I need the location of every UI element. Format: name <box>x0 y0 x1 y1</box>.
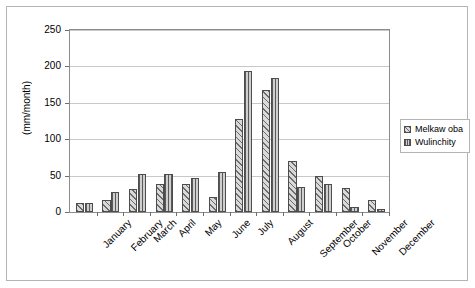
bar-december-melkaw-oba <box>368 200 376 212</box>
bar-may-melkaw-oba <box>182 184 190 212</box>
x-axis-tick-mark <box>150 212 151 216</box>
bar-february-wulinchity <box>111 192 119 212</box>
bar-december-wulinchity <box>377 209 385 212</box>
x-axis-tick-mark <box>389 212 390 216</box>
legend-item: Wulinchity <box>404 136 466 149</box>
bar-august-melkaw-oba <box>262 90 270 212</box>
x-axis-tick-mark <box>362 212 363 216</box>
plot-area <box>69 29 390 213</box>
x-axis-tick-mark <box>230 212 231 216</box>
x-axis-tick-mark <box>309 212 310 216</box>
y-axis-tick-label: 50 <box>35 171 61 181</box>
legend-swatch-wulinchity <box>404 139 411 146</box>
x-axis-tick-mark <box>283 212 284 216</box>
bar-august-wulinchity <box>271 78 279 212</box>
bar-january-melkaw-oba <box>76 203 84 212</box>
legend-label-melkaw-oba: Melkaw oba <box>415 125 463 134</box>
bar-november-wulinchity <box>350 207 358 212</box>
x-axis-tick-mark <box>203 212 204 216</box>
x-axis-tick-mark <box>256 212 257 216</box>
bar-january-wulinchity <box>85 203 93 212</box>
bar-march-melkaw-oba <box>129 189 137 212</box>
bar-march-wulinchity <box>138 174 146 212</box>
x-axis-tick-mark <box>336 212 337 216</box>
y-axis-tick-label: 250 <box>35 25 61 35</box>
chart-legend: Melkaw oba Wulinchity <box>400 119 470 153</box>
bar-october-wulinchity <box>324 184 332 212</box>
bar-september-wulinchity <box>297 187 305 212</box>
bar-june-wulinchity <box>218 172 226 212</box>
x-axis-tick-mark <box>176 212 177 216</box>
bar-july-wulinchity <box>244 71 252 212</box>
bar-july-melkaw-oba <box>235 119 243 212</box>
x-axis-tick-label: June <box>230 217 253 240</box>
legend-swatch-melkaw-oba <box>404 126 411 133</box>
x-axis-tick-mark <box>123 212 124 216</box>
bar-june-melkaw-oba <box>209 197 217 212</box>
bar-september-melkaw-oba <box>288 161 296 212</box>
bar-october-melkaw-oba <box>315 176 323 212</box>
legend-item: Melkaw oba <box>404 123 466 136</box>
chart-frame: (mm/month) 050100150200250 JanuaryFebrua… <box>6 6 468 281</box>
bar-april-melkaw-oba <box>156 184 164 212</box>
y-axis-tick-label: 100 <box>35 134 61 144</box>
y-axis-tick-label: 0 <box>35 207 61 217</box>
bar-november-melkaw-oba <box>342 188 350 212</box>
x-axis-tick-label: August <box>285 217 315 247</box>
y-axis-tick-label: 200 <box>35 61 61 71</box>
bar-april-wulinchity <box>164 174 172 212</box>
y-axis-title: (mm/month) <box>21 81 35 135</box>
bar-may-wulinchity <box>191 178 199 212</box>
bar-february-melkaw-oba <box>102 200 110 212</box>
chart-screenshot: (mm/month) 050100150200250 JanuaryFebrua… <box>0 0 475 288</box>
bars-layer <box>70 30 389 212</box>
x-axis-tick-label: April <box>176 217 198 239</box>
x-axis-tick-mark <box>97 212 98 216</box>
x-axis-tick-label: May <box>202 217 223 238</box>
x-axis-tick-label: July <box>255 217 275 237</box>
y-axis-tick-label: 150 <box>35 98 61 108</box>
legend-label-wulinchity: Wulinchity <box>415 138 456 147</box>
